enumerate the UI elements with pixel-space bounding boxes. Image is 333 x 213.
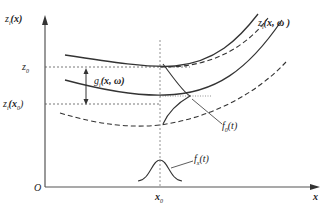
zix0-tick-label: zi(x0) xyxy=(3,99,23,111)
f0-label: f0(t) xyxy=(222,121,237,133)
x0-label: x0 xyxy=(155,192,163,204)
y-axis-arrow-icon xyxy=(42,15,48,25)
x-axis-label: x xyxy=(313,192,318,202)
diagram-canvas xyxy=(0,0,333,213)
gap-label: gi(x, ω) xyxy=(94,76,125,88)
upper-bound-curve xyxy=(65,14,258,66)
upper-dashed-curve xyxy=(160,18,268,67)
origin-label: O xyxy=(34,183,41,193)
z0-tick-label: z0 xyxy=(22,62,29,74)
gap-arrow-down-icon xyxy=(84,99,89,105)
y-axis-label: zi(x) xyxy=(5,14,22,26)
curve-label: zi(x, ω ) xyxy=(258,18,290,30)
x-axis-arrow-icon xyxy=(310,184,320,190)
gap-arrow-up-icon xyxy=(84,68,89,74)
fx-leader xyxy=(171,161,193,168)
fx-label: fx(t) xyxy=(194,154,209,166)
f0-leader xyxy=(192,99,222,124)
